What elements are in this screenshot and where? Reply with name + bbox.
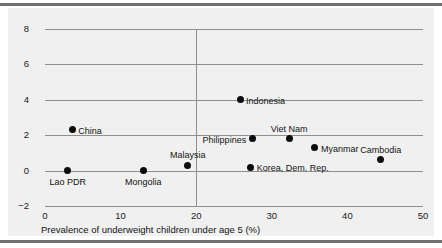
data-point-label: Myanmar (321, 144, 359, 153)
data-point-label: Indonesia (246, 96, 285, 105)
x-tick-label: 30 (252, 211, 292, 221)
y-tick-label: −2 (0, 201, 29, 211)
data-point-label: Lao PDR (49, 178, 86, 187)
chart-panel: Lao PDRChinaMongoliaMalaysiaIndonesiaKor… (8, 8, 434, 236)
gridline-y (45, 29, 423, 30)
data-point-label: Malaysia (170, 151, 206, 160)
x-tick-label: 10 (101, 211, 141, 221)
plot-area: Lao PDRChinaMongoliaMalaysiaIndonesiaKor… (45, 29, 423, 206)
data-point-label: Mongolia (125, 178, 162, 187)
reference-line-x20 (196, 29, 197, 206)
x-tick-label: 40 (327, 211, 367, 221)
x-axis-title: Prevalence of underweight children under… (41, 224, 260, 235)
y-tick-label: 0 (0, 166, 29, 176)
data-point[interactable] (237, 96, 244, 103)
y-tick-label: 2 (0, 130, 29, 140)
figure: Lao PDRChinaMongoliaMalaysiaIndonesiaKor… (0, 0, 442, 248)
x-tick-label: 20 (176, 211, 216, 221)
x-tick-label: 0 (25, 211, 65, 221)
x-axis-line (45, 206, 423, 207)
data-point[interactable] (377, 156, 384, 163)
y-tick-label: 6 (0, 59, 29, 69)
data-point[interactable] (69, 126, 76, 133)
data-point-label: Viet Nam (271, 125, 308, 134)
x-tick-label: 50 (403, 211, 442, 221)
gridline-y (45, 171, 423, 172)
data-point[interactable] (247, 164, 254, 171)
data-point[interactable] (184, 162, 191, 169)
data-point-label: Cambodia (360, 146, 401, 155)
data-point[interactable] (286, 135, 293, 142)
data-point-label: Korea, Dem. Rep. (257, 164, 329, 173)
y-tick-label: 4 (0, 95, 29, 105)
gridline-y (45, 100, 423, 101)
data-point[interactable] (249, 135, 256, 142)
top-rule (0, 3, 442, 6)
data-point[interactable] (311, 144, 318, 151)
bottom-rule (0, 240, 442, 243)
y-tick-label: 8 (0, 24, 29, 34)
gridline-y (45, 64, 423, 65)
data-point-label: China (78, 126, 102, 135)
data-point[interactable] (64, 167, 71, 174)
data-point[interactable] (140, 167, 147, 174)
